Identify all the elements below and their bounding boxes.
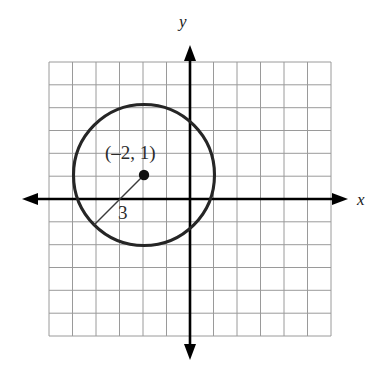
circle-diagram: (–2, 1) 3 y x — [0, 0, 372, 366]
coordinate-plane-svg: (–2, 1) 3 y x — [0, 0, 372, 366]
x-axis-label: x — [356, 190, 365, 209]
x-axis — [22, 193, 348, 205]
radius-length-label: 3 — [118, 202, 128, 223]
x-axis-right-arrow-icon — [332, 193, 348, 205]
center-point-marker — [139, 170, 149, 180]
y-axis-top-arrow-icon — [184, 45, 196, 61]
center-coordinate-label: (–2, 1) — [105, 142, 156, 164]
y-axis-bottom-arrow-icon — [184, 344, 196, 360]
x-axis-left-arrow-icon — [22, 193, 38, 205]
y-axis-label: y — [177, 12, 187, 31]
